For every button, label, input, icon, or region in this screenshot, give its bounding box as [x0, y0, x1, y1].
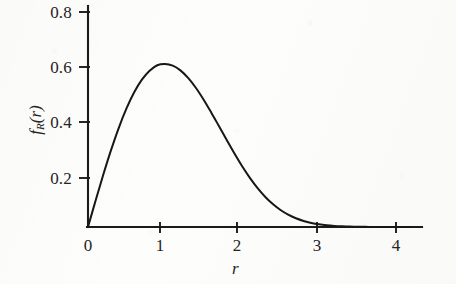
y-tick-label-0.2: 0.2	[34, 170, 72, 187]
x-tick-label-3: 3	[305, 237, 329, 254]
y-axis-title: fR(r)	[26, 88, 46, 152]
y-tick-label-0.6: 0.6	[34, 59, 72, 76]
rayleigh-pdf-curve	[88, 64, 411, 227]
x-tick-label-1: 1	[148, 237, 172, 254]
y-axis-title-base: f	[26, 130, 45, 135]
rayleigh-density-figure: 0.8 0.6 0.4 0.2 0 1 2 3 4 r fR(r)	[0, 0, 456, 284]
y-axis-title-subscript: R	[34, 123, 46, 130]
x-tick-label-2: 2	[225, 237, 249, 254]
x-tick-label-4: 4	[384, 237, 408, 254]
x-axis-title: r	[232, 259, 239, 279]
y-axis-title-argument: (r)	[26, 105, 45, 123]
x-tick-label-0: 0	[76, 237, 100, 254]
y-tick-label-0.8: 0.8	[34, 4, 72, 21]
